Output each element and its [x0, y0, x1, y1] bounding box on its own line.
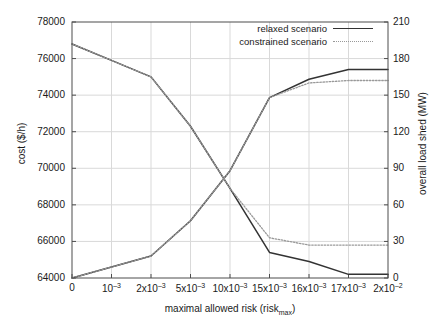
x-axis-title-close: ) — [292, 303, 295, 314]
legend-label-relaxed-scenario: relaxed scenario — [257, 23, 327, 34]
y-axis-left-tick-label: 72000 — [5, 126, 65, 137]
y-axis-right-tick-label: 120 — [393, 126, 433, 137]
y-axis-right-tick-label: 180 — [393, 53, 433, 64]
y-axis-right-tick-label: 150 — [393, 89, 433, 100]
y-axis-right-tick-label: 210 — [393, 16, 433, 27]
y-axis-left-tick-label: 78000 — [5, 16, 65, 27]
legend-swatch-solid-line — [333, 28, 373, 29]
y-axis-right-tick-label: 60 — [393, 199, 433, 210]
y-axis-right-tick-label: 90 — [393, 162, 433, 173]
y-axis-left-title: cost ($/h) — [16, 84, 27, 204]
legend-item-relaxed-scenario: relaxed scenario — [133, 23, 373, 34]
legend-item-constrained-scenario: constrained scenario — [133, 36, 373, 47]
y-axis-right-title: overall load shed (MW) — [417, 84, 428, 204]
y-axis-left-tick-label: 66000 — [5, 235, 65, 246]
legend-label-constrained-scenario: constrained scenario — [239, 36, 327, 47]
y-axis-left-tick-label: 74000 — [5, 89, 65, 100]
x-axis-title-sub: max — [279, 309, 292, 316]
y-axis-left-tick-label: 68000 — [5, 199, 65, 210]
y-axis-left-tick-label: 76000 — [5, 53, 65, 64]
y-axis-left-tick-label: 70000 — [5, 162, 65, 173]
x-axis-title-main: maximal allowed risk (risk — [165, 303, 279, 314]
y-axis-right-tick-label: 30 — [393, 235, 433, 246]
x-axis-title: maximal allowed risk (riskmax) — [72, 303, 388, 316]
x-axis-tick-label: 2x10–2 — [353, 282, 423, 294]
chart-figure: cost ($/h) overall load shed (MW) maxima… — [0, 0, 440, 331]
legend-swatch-dotted-line — [333, 41, 373, 42]
